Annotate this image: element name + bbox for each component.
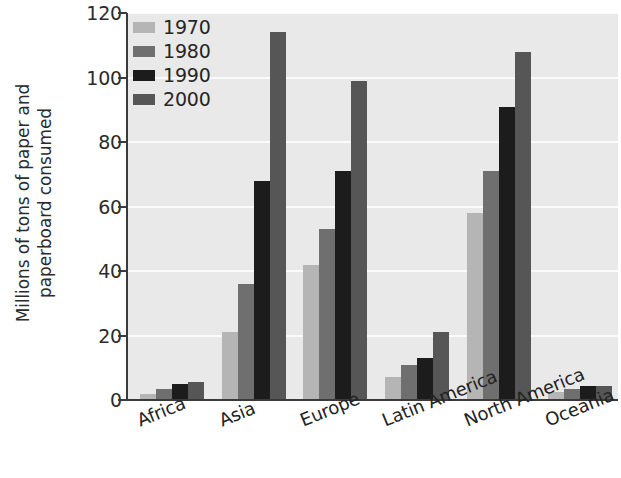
y-axis-tick-mark	[118, 335, 127, 337]
y-axis-tick-label: 60	[70, 196, 122, 218]
bar	[270, 32, 286, 400]
y-axis-tick-label: 40	[70, 260, 122, 282]
y-axis-tick-mark	[118, 12, 127, 14]
legend-label: 2000	[163, 88, 211, 110]
y-axis-tick-mark	[118, 141, 127, 143]
bar	[335, 171, 351, 400]
y-axis-tick-label: 20	[70, 325, 122, 347]
bar	[222, 332, 238, 400]
legend-label: 1980	[163, 40, 211, 62]
bar	[499, 107, 515, 400]
legend-item: 1990	[133, 63, 243, 87]
legend-item: 1970	[133, 15, 243, 39]
bar	[254, 181, 270, 400]
legend-swatch	[133, 22, 155, 33]
y-axis-tick-labels: 020406080100120	[70, 0, 122, 410]
legend: 1970198019902000	[133, 15, 243, 111]
bar-chart-figure: Millions of tons of paper and paperboard…	[0, 0, 621, 478]
y-axis-tick-mark	[118, 77, 127, 79]
y-axis-title-line-1: Millions of tons of paper and	[13, 83, 35, 322]
y-axis-tick-label: 0	[70, 389, 122, 411]
legend-item: 2000	[133, 87, 243, 111]
bar	[188, 382, 204, 400]
legend-label: 1970	[163, 16, 211, 38]
legend-swatch	[133, 46, 155, 57]
y-axis-tick-mark	[118, 270, 127, 272]
bar-group	[548, 13, 612, 400]
legend-swatch	[133, 94, 155, 105]
bar-group	[385, 13, 449, 400]
bar-group	[303, 13, 367, 400]
bar	[238, 284, 254, 400]
bar-group	[467, 13, 531, 400]
y-axis-tick-label: 100	[70, 67, 122, 89]
y-axis-tick-mark	[118, 206, 127, 208]
legend-item: 1980	[133, 39, 243, 63]
legend-label: 1990	[163, 64, 211, 86]
x-axis-category-label: Asia	[216, 397, 258, 430]
bar	[401, 365, 417, 400]
bar	[515, 52, 531, 400]
y-axis-title: Millions of tons of paper and paperboard…	[0, 0, 70, 405]
y-axis-tick-label: 80	[70, 131, 122, 153]
bar	[319, 229, 335, 400]
bar	[303, 265, 319, 400]
y-axis-title-line-2: paperboard consumed	[35, 83, 57, 322]
bar	[385, 377, 401, 400]
legend-swatch	[133, 70, 155, 81]
bar	[351, 81, 367, 400]
y-axis-tick-label: 120	[70, 2, 122, 24]
y-axis-tick-mark	[118, 399, 127, 401]
